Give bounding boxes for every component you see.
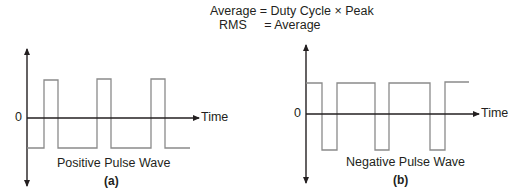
panel-b-title: Negative Pulse Wave: [346, 155, 465, 169]
panel-b-zero-label: 0: [294, 106, 301, 120]
panel-a-zero-label: 0: [15, 110, 22, 124]
panel-a-time-label: Time: [201, 110, 228, 124]
panel-b-waveform: [306, 82, 469, 150]
panel-a-caption: (a): [104, 174, 119, 188]
panel-a-waveform: [27, 79, 190, 148]
panel-a-title: Positive Pulse Wave: [57, 156, 170, 170]
panel-b-time-label: Time: [481, 106, 508, 120]
panel-b-caption: (b): [393, 173, 408, 187]
